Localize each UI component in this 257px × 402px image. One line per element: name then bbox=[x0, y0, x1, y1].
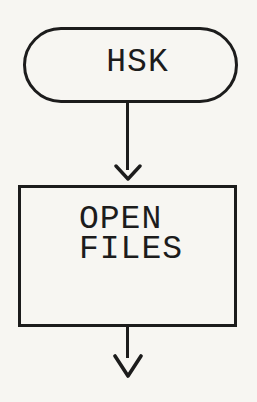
terminator-node-label: HSK bbox=[106, 44, 168, 81]
arrow-down-icon bbox=[114, 164, 142, 182]
process-label-line-2: FILES bbox=[79, 235, 183, 265]
terminator-node-hsk: HSK bbox=[23, 27, 238, 103]
connector-line-top bbox=[126, 103, 129, 170]
flowchart-canvas: HSK OPEN FILES bbox=[0, 0, 257, 402]
arrow-down-icon bbox=[112, 354, 144, 380]
process-node-label: OPEN FILES bbox=[21, 188, 183, 265]
process-node-open-files: OPEN FILES bbox=[18, 185, 237, 327]
